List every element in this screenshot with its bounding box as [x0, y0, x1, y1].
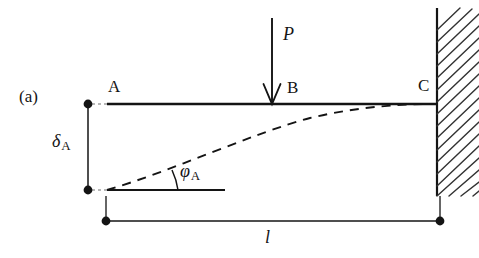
load-label-P: P	[283, 25, 294, 43]
hatch-line	[437, 50, 479, 90]
hatch-line	[437, 26, 479, 66]
hatch-line	[437, 134, 479, 174]
load-arrow-P	[264, 18, 281, 104]
panel-label: (a)	[19, 88, 38, 105]
length-dot-left	[102, 217, 111, 226]
node-dot-A	[84, 100, 93, 109]
hatch-line	[449, 170, 479, 196]
deflected-shape-dashed-curve	[107, 104, 437, 190]
hatch-line	[437, 146, 479, 186]
node-dot-deflected-end	[84, 186, 93, 195]
hatch-line	[437, 74, 479, 114]
hatch-line	[437, 122, 479, 162]
length-dot-right	[436, 217, 445, 226]
hatch-line	[437, 62, 479, 102]
hatch-line	[437, 98, 479, 138]
length-label-l: l	[265, 228, 270, 246]
wall-hatching-group	[437, 8, 479, 196]
hatch-line	[473, 191, 479, 196]
node-label-B: B	[287, 79, 298, 96]
beam-deflection-figure: (a) A B C P δA φA l	[0, 0, 479, 258]
rotation-subscript: A	[191, 168, 200, 183]
hatch-line	[437, 38, 479, 78]
deflection-symbol: δ	[52, 131, 60, 151]
node-label-C: C	[418, 77, 429, 94]
deflection-label-delta-A: δA	[52, 132, 70, 150]
hatch-line	[437, 158, 479, 196]
hatch-line	[437, 86, 479, 126]
hatch-line	[437, 8, 460, 30]
hatch-line	[437, 110, 479, 150]
hatch-line	[437, 14, 479, 54]
node-label-A: A	[108, 78, 120, 95]
rotation-label-phi-A: φA	[180, 162, 199, 180]
phi-angle-arc	[172, 170, 178, 190]
rotation-symbol: φ	[180, 161, 190, 181]
deflection-subscript: A	[61, 138, 70, 153]
figure-drawing-canvas	[0, 0, 479, 258]
